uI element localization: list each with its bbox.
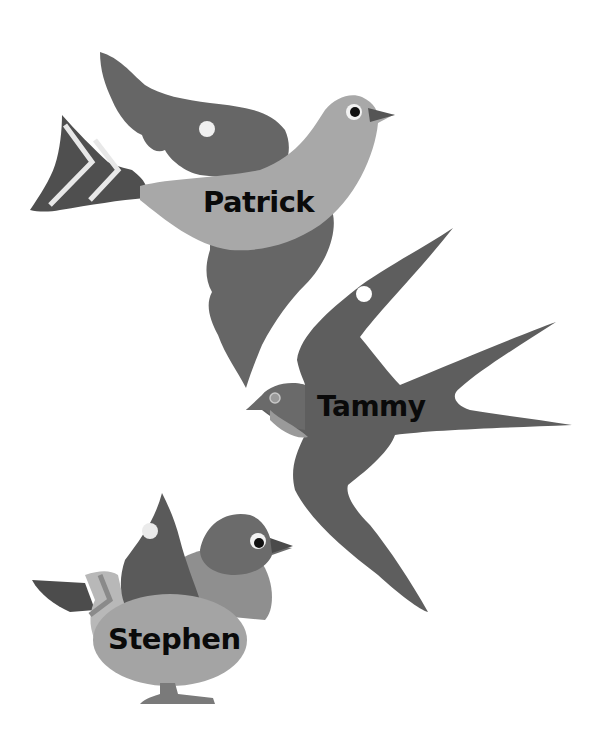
- label-stephen: Stephen: [108, 622, 241, 656]
- patrick-hole: [199, 121, 215, 137]
- label-tammy: Tammy: [317, 390, 426, 423]
- bird-stephen: [32, 493, 293, 704]
- stephen-hole: [142, 523, 158, 539]
- tammy-hole: [356, 286, 372, 302]
- tammy-eye: [270, 393, 280, 403]
- stephen-eye: [254, 538, 264, 548]
- label-patrick: Patrick: [203, 185, 314, 219]
- birds-illustration: [0, 0, 612, 743]
- stephen-tail: [32, 580, 95, 612]
- stephen-foot: [140, 683, 215, 704]
- patrick-upper-wing: [100, 52, 289, 179]
- patrick-eye: [350, 107, 360, 117]
